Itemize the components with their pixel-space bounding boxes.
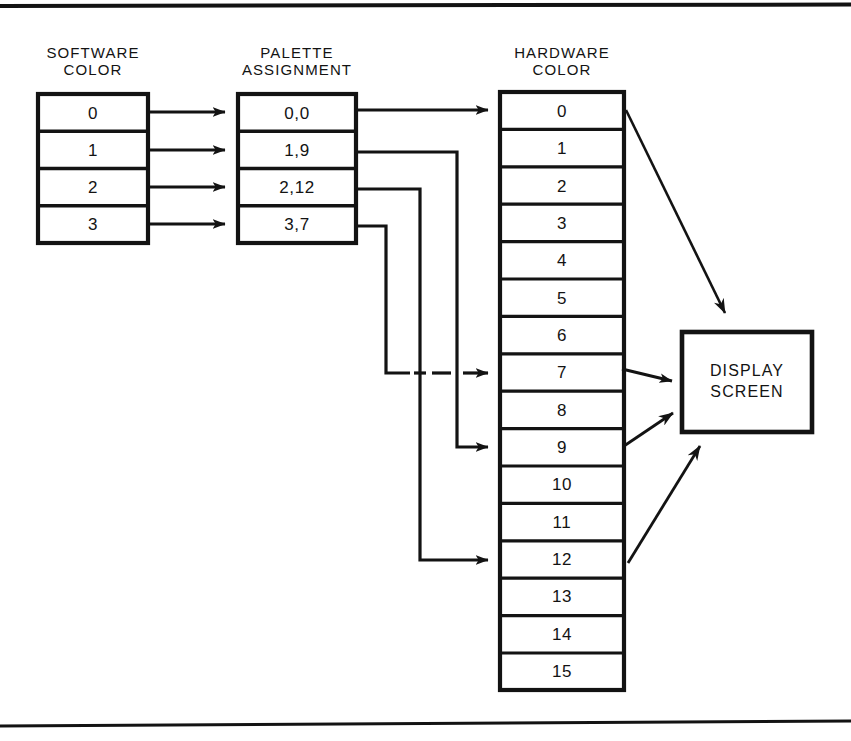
display-screen-label: DISPLAY SCREEN: [682, 360, 812, 402]
palette-cell: 2,12: [238, 179, 356, 196]
link-palette3-to-hardware7: [358, 226, 488, 373]
hardware-cell: 11: [500, 514, 624, 531]
software-cell: 0: [38, 105, 148, 122]
hardware-cell: 0: [500, 103, 624, 120]
hardware-cell: 12: [500, 551, 624, 568]
hardware-color-title: HARDWARE COLOR: [487, 44, 637, 78]
software-cell: 2: [38, 179, 148, 196]
hardware-cell: 9: [500, 439, 624, 456]
palette-cell: 0,0: [238, 105, 356, 122]
top-rule: [0, 5, 851, 7]
software-to-palette-arrows: [150, 112, 225, 224]
hardware-cell: 3: [500, 215, 624, 232]
hardware-cell: 10: [500, 476, 624, 493]
hardware-cell: 8: [500, 402, 624, 419]
hardware-cell: 4: [500, 252, 624, 269]
palette-cell: 3,7: [238, 216, 356, 233]
arrow-hardware9-to-display: [624, 413, 673, 446]
palette-cell: 1,9: [238, 142, 356, 159]
hardware-cell: 2: [500, 178, 624, 195]
arrow-hardware7-to-display: [622, 369, 672, 381]
software-cell: 1: [38, 142, 148, 159]
bottom-rule: [0, 721, 851, 726]
hardware-cell: 13: [500, 588, 624, 605]
hardware-cell: 1: [500, 140, 624, 157]
arrow-hardware12-to-display: [628, 446, 700, 563]
hardware-cell: 7: [500, 364, 624, 381]
arrow-hardware0-to-display: [626, 110, 725, 313]
hardware-cell: 15: [500, 663, 624, 680]
diagram-canvas: SOFTWARE COLOR PALETTE ASSIGNMENT HARDWA…: [0, 0, 851, 741]
palette-assignment-title: PALETTE ASSIGNMENT: [222, 44, 372, 78]
software-cell: 3: [38, 216, 148, 233]
link-palette1-to-hardware9: [358, 152, 488, 447]
software-color-title: SOFTWARE COLOR: [18, 44, 168, 78]
hardware-cell: 6: [500, 327, 624, 344]
hardware-cell: 5: [500, 290, 624, 307]
hardware-cell: 14: [500, 626, 624, 643]
